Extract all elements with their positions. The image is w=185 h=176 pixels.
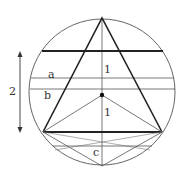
geometry-diagram: 2 a b 1 1 c <box>0 0 185 176</box>
lower-segment-label: 1 <box>104 106 111 119</box>
upper-segment-label: 1 <box>104 63 111 76</box>
chord-c-label: c <box>93 146 99 159</box>
inscribed-triangle <box>43 18 162 132</box>
arrow-head-down-icon <box>18 127 23 133</box>
dimension-label: 2 <box>9 85 16 98</box>
chord-a-label: a <box>48 68 55 81</box>
center-dot <box>100 93 104 97</box>
chord-b-label: b <box>44 89 51 102</box>
arrow-head-up-icon <box>18 51 23 57</box>
